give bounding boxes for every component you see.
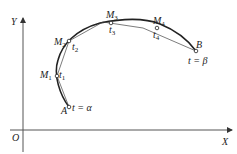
origin-label: O [12,132,19,143]
label-M3: M3 [105,9,118,22]
polyline-chords [57,22,196,107]
param-B: t = β [188,55,208,66]
parametric-curve-diagram: O X Y A t = α M1 t1 M2 t2 M3 t3 M4 t4 B … [0,0,237,154]
param-M4: t4 [153,29,160,42]
x-axis-label: X [221,136,229,147]
param-M2: t2 [72,41,79,54]
label-M1: M1 [39,69,52,82]
label-M4: M4 [152,15,165,28]
curve [56,19,196,107]
label-B: B [196,39,202,50]
y-axis-label: Y [11,16,18,27]
param-M1: t1 [59,69,66,82]
param-A: t = α [72,102,93,113]
param-M3: t3 [109,24,116,37]
point-M2 [67,39,71,43]
label-M2: M2 [53,36,66,49]
point-A [67,105,71,109]
label-A: A [60,105,68,116]
